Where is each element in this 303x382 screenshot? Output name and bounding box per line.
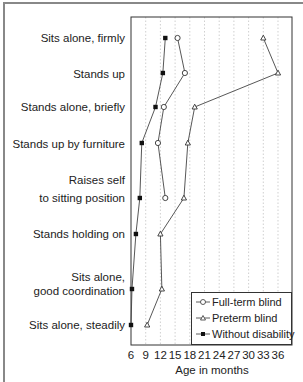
x-tick-label: 9 [142, 349, 148, 361]
legend-item-without-disability: Without disability [196, 328, 295, 340]
data-point [163, 36, 167, 40]
legend-item-preterm: Preterm blind [196, 312, 277, 324]
x-tick-label: 18 [183, 349, 196, 361]
category-label: good coordination [34, 284, 125, 298]
data-point [134, 232, 138, 236]
data-point [153, 105, 157, 109]
category-label: Sits alone, steadily [29, 318, 125, 332]
x-tick-label: 6 [128, 349, 134, 361]
x-tick-label: 33 [257, 349, 270, 361]
x-tick-label: 27 [227, 349, 240, 361]
category-label: Stands alone, briefly [21, 100, 125, 114]
x-axis-label: Age in months [175, 364, 249, 376]
data-point [161, 71, 165, 75]
data-point [155, 140, 160, 145]
data-point [181, 195, 186, 200]
x-tick-label: 30 [242, 349, 255, 361]
data-point [175, 35, 180, 40]
x-tick-label: 15 [169, 349, 182, 361]
data-point [261, 35, 266, 40]
category-label: to sitting position [39, 191, 125, 205]
data-point [129, 323, 133, 327]
data-point [182, 70, 187, 75]
legend-item-full-term: Full-term blind [196, 296, 282, 308]
x-tick-label: 24 [213, 349, 226, 361]
category-label: Sits alone, firmly [41, 31, 125, 45]
x-tick-label: 12 [154, 349, 167, 361]
data-point [130, 287, 134, 291]
x-tick-label: 36 [272, 349, 285, 361]
data-point [138, 196, 142, 200]
data-point [275, 70, 280, 75]
filled-square-icon [196, 330, 210, 338]
category-label: Stands up [73, 67, 125, 81]
category-label: Stands holding on [33, 227, 125, 241]
category-label: Stands up by furniture [12, 137, 125, 151]
x-tick-label: 21 [198, 349, 211, 361]
open-circle-icon [196, 298, 210, 306]
data-point [161, 104, 166, 109]
data-point [163, 195, 168, 200]
category-label: Sits alone, [71, 270, 125, 284]
legend: Full-term blind Preterm blind Without di… [191, 292, 292, 345]
open-triangle-icon [196, 314, 210, 322]
data-point [140, 141, 144, 145]
category-label: Raises self [69, 173, 125, 187]
